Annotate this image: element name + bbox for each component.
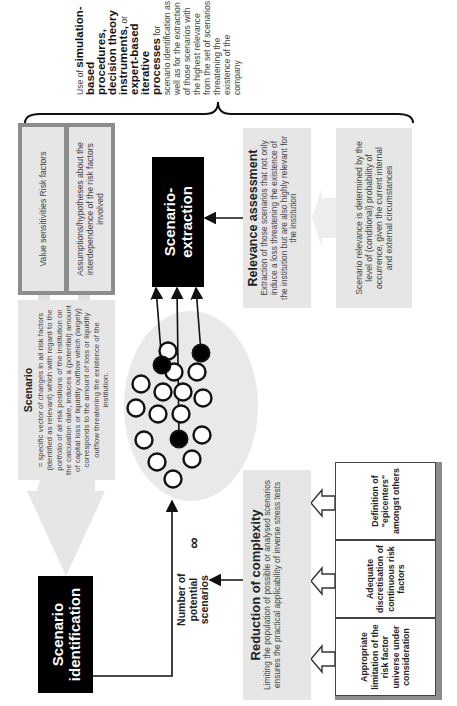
potential-scenarios-label: Number of potential scenarios ∞ [176,531,208,651]
reduction-text: Limiting the population of possible or a… [263,478,283,692]
relevance-detail-text: Scenario relevance is determined by the … [354,140,395,296]
infinity-symbol: ∞ [188,537,200,548]
value-sensitivities-box: Value sensitivities Risk factors [22,127,64,291]
measure-discretisation: Adequate discretisation of continuous ri… [335,540,436,618]
inputs-panel: Value sensitivities Risk factors Assumpt… [18,123,115,295]
assumptions-box: Assumptions/hypotheses about the interde… [69,127,111,291]
reduction-of-complexity-box: Reduction of complexity Limiting the pop… [243,470,311,700]
relevance-detail-box: Scenario relevance is determined by the … [336,128,412,308]
scenario-identification-box: Scenario identification [38,576,93,693]
scenario-identification-label: Scenario identification [49,582,83,687]
potential-scenarios-text: Number of potential scenarios [176,555,211,645]
measure-risk-factor-limitation: Appropriate limitation of the risk facto… [335,618,436,696]
measure-text-1: Appropriate limitation of the risk facto… [359,619,412,695]
relevance-assessment-title: Relevance assessment [246,134,260,302]
measures-panel: Appropriate limitation of the risk facto… [335,462,442,700]
intro-text: Use of simulation-based procedures, deci… [25,0,291,95]
identification-connector [93,501,172,676]
measure-text-3: Definition of "epicenters" amongst other… [370,463,402,539]
scenario-extraction-label: Scenario-extraction [161,175,195,269]
scenario-extraction-box: Scenario-extraction [152,157,204,287]
relevance-assessment-box: Relevance assessment Extraction of those… [243,128,311,308]
scenario-definition-text: = specific vector of changes in all risk… [36,305,110,475]
scenario-definition-title: Scenario [22,305,34,475]
relevance-assessment-text: Extraction of those scenarios that not o… [260,134,299,302]
assumptions-text: Assumptions/hypotheses about the interde… [75,131,106,287]
reduction-title: Reduction of complexity [248,478,263,692]
curly-bracket [25,102,413,123]
value-sensitivities-text: Value sensitivities Risk factors [38,152,48,267]
measure-text-2: Adequate discretisation of continuous ri… [365,541,407,617]
measure-epicenters: Definition of "epicenters" amongst other… [335,462,436,540]
intro-tail: for scenario identification as well as f… [152,1,242,95]
scenario-definition-box: Scenario = specific vector of changes in… [18,300,115,480]
scenario-to-identification-arrow [27,480,105,576]
detail-to-relevance-arrow [312,188,336,248]
measure-arrows [311,490,335,672]
diagram-canvas: Use of simulation-based procedures, deci… [0,0,457,706]
